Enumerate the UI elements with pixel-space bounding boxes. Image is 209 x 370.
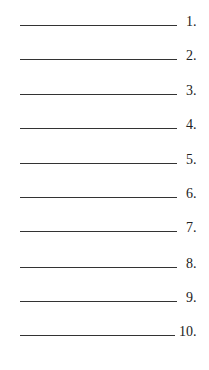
answer-number-9: 9. — [186, 290, 197, 306]
answer-blank-7[interactable] — [20, 231, 177, 232]
answer-blank-8[interactable] — [20, 267, 177, 268]
answer-row-7: 7. — [0, 216, 209, 236]
answer-row-2: 2. — [0, 44, 209, 64]
answer-number-2: 2. — [186, 48, 197, 64]
answer-blank-5[interactable] — [20, 163, 177, 164]
answer-number-5: 5. — [186, 152, 197, 168]
answer-row-8: 8. — [0, 252, 209, 272]
answer-number-1: 1. — [186, 14, 197, 30]
answer-number-3: 3. — [186, 83, 197, 99]
answer-number-6: 6. — [186, 186, 197, 202]
answer-blank-3[interactable] — [20, 94, 177, 95]
answer-number-10: 10. — [179, 324, 197, 340]
answer-blank-9[interactable] — [20, 301, 177, 302]
answer-blank-10[interactable] — [20, 335, 175, 336]
answer-row-10: 10. — [0, 320, 209, 340]
answer-row-1: 1. — [0, 10, 209, 30]
answer-number-8: 8. — [186, 256, 197, 272]
answer-number-4: 4. — [186, 117, 197, 133]
answer-number-7: 7. — [186, 220, 197, 236]
answer-row-4: 4. — [0, 113, 209, 133]
answer-blank-6[interactable] — [20, 197, 177, 198]
answer-row-3: 3. — [0, 79, 209, 99]
answer-blank-2[interactable] — [20, 59, 177, 60]
answer-row-6: 6. — [0, 182, 209, 202]
answer-row-9: 9. — [0, 286, 209, 306]
answer-row-5: 5. — [0, 148, 209, 168]
answer-blank-1[interactable] — [20, 25, 177, 26]
answer-blank-4[interactable] — [20, 128, 177, 129]
